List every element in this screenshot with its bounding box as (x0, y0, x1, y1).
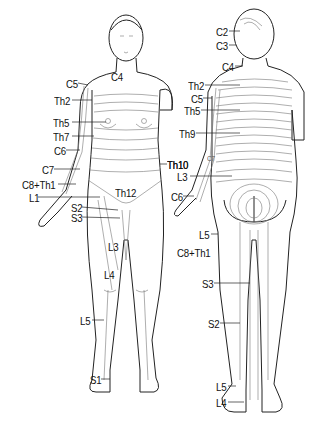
dermatome-label-c5: C5 (66, 79, 78, 90)
dermatome-label-c8th1b: C8+Th1 (177, 248, 211, 259)
dermatome-label-c7: C7 (42, 165, 54, 176)
dermatome-label-c4b: C4 (222, 62, 234, 73)
front-body-figure (39, 15, 173, 392)
dermatome-label-l5b: L5 (199, 230, 209, 241)
dermatome-label-c2: C2 (216, 27, 228, 38)
dermatome-label-c6b: C6 (171, 192, 183, 203)
dermatome-label-th5: Th5 (53, 118, 69, 129)
dermatome-label-l5: L5 (80, 316, 90, 327)
dermatome-label-c5b: C5 (191, 94, 203, 105)
dermatome-label-l1: L1 (29, 193, 39, 204)
dermatome-label-s1: S1 (90, 375, 101, 386)
dermatome-label-c8th1: C8+Th1 (22, 180, 56, 191)
dermatome-label-th2: Th2 (54, 96, 70, 107)
dermatome-label-s3b: S3 (202, 279, 213, 290)
dermatome-label-l3b: L3 (177, 172, 187, 183)
dermatome-label-th5b: Th5 (184, 106, 200, 117)
dermatome-label-th9: Th9 (179, 129, 195, 140)
dermatome-label-l4b: L4 (216, 398, 226, 409)
dermatome-label-th2b: Th2 (188, 81, 204, 92)
dermatome-label-c3: C3 (216, 41, 228, 52)
dermatome-label-th7: Th7 (53, 132, 69, 143)
dermatome-label-l5c: L5 (216, 382, 226, 393)
dermatome-label-s3: S3 (71, 213, 82, 224)
dermatome-label-s2b: S2 (208, 319, 219, 330)
dermatome-label-l3: L3 (108, 242, 118, 253)
dermatome-label-c7b: C7 (207, 155, 215, 162)
dermatome-label-c4: C4 (111, 72, 123, 83)
back-body-figure (174, 9, 304, 412)
dermatome-figures (0, 0, 316, 429)
dermatome-label-th10b: Th10 (167, 160, 188, 171)
dermatome-label-th12: Th12 (115, 188, 136, 199)
dermatome-label-l4: L4 (104, 270, 114, 281)
dermatome-label-c6: C6 (54, 146, 66, 157)
